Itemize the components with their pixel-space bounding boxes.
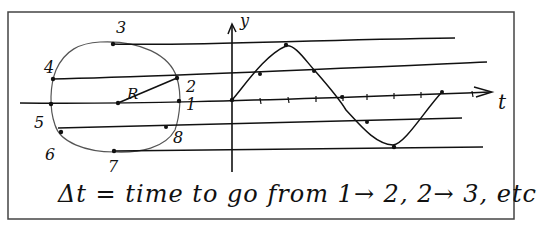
- point-label-2: 2: [185, 77, 196, 96]
- circle-points: [49, 42, 181, 153]
- point-label-1: 1: [186, 95, 196, 114]
- projection-line-1-5-axis: [20, 92, 490, 103]
- radius-label: R: [126, 85, 138, 103]
- reference-circle: [51, 42, 180, 152]
- point-label-7: 7: [108, 157, 119, 176]
- point-label-5: 5: [34, 113, 44, 132]
- projection-line-2-4: [52, 62, 487, 79]
- caption: Δt = time to go from 1→ 2, 2→ 3, etc: [58, 180, 537, 208]
- y-axis-label: y: [239, 11, 250, 30]
- projection-line-3: [112, 38, 455, 44]
- point-label-4: 4: [43, 58, 54, 77]
- t-axis-label: t: [498, 90, 507, 114]
- point-label-8: 8: [173, 128, 183, 147]
- projection-line-6-8: [58, 118, 462, 128]
- point-label-6: 6: [45, 145, 55, 164]
- projection-line-7: [113, 147, 483, 151]
- point-label-3: 3: [116, 18, 126, 37]
